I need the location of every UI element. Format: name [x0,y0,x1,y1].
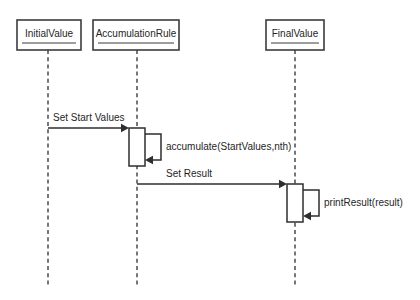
message-label-set-result: Set Result [166,168,212,179]
message-label-print-result: printResult(result) [324,197,403,208]
arrowhead-set-result [279,180,287,188]
message-set-start-values[interactable]: Set Start Values [48,112,129,133]
message-label-set-start-values: Set Start Values [53,112,125,123]
sequence-diagram-canvas: InitialValue AccumulationRule FinalValue… [0,0,420,300]
participant-label-accumulation-rule: AccumulationRule [96,28,177,39]
activation-bar-final-value[interactable] [287,184,303,222]
participant-final-value[interactable]: FinalValue [266,20,324,50]
sequence-diagram-svg: InitialValue AccumulationRule FinalValue… [0,0,420,300]
message-print-result[interactable]: printResult(result) [303,190,403,220]
message-label-accumulate: accumulate(StartValues,nth) [166,141,291,152]
message-set-result[interactable]: Set Result [137,168,287,189]
participant-initial-value[interactable]: InitialValue [17,20,81,50]
message-accumulate[interactable]: accumulate(StartValues,nth) [145,134,291,164]
activation-bar-accumulation-rule[interactable] [129,128,145,166]
arrowhead-print-result [303,212,311,220]
arrowhead-accumulate [145,156,153,164]
participant-label-initial-value: InitialValue [25,28,74,39]
activation-rect-final-value[interactable] [287,184,303,222]
arrowhead-set-start-values [121,124,129,132]
participant-accumulation-rule[interactable]: AccumulationRule [93,20,179,50]
activation-rect-accumulation-rule[interactable] [129,128,145,166]
participant-label-final-value: FinalValue [272,28,319,39]
